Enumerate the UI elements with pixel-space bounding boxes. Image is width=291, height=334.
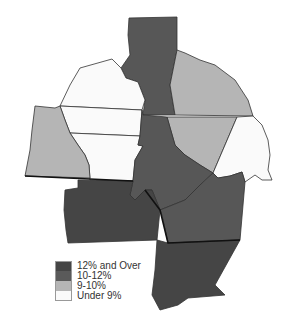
legend-label: Under 9% — [77, 291, 121, 301]
legend-item-under-9: Under 9% — [55, 291, 141, 301]
legend-swatch — [55, 291, 72, 301]
legend-swatch — [55, 271, 72, 281]
map-legend: 12% and Over 10-12% 9-10% Under 9% — [55, 261, 141, 301]
region-west-central-upper[interactable] — [60, 106, 142, 136]
region-northeast[interactable] — [170, 50, 253, 116]
legend-swatch — [55, 261, 72, 271]
region-south[interactable] — [152, 240, 240, 310]
legend-swatch — [55, 281, 72, 291]
choropleth-map — [0, 0, 291, 334]
